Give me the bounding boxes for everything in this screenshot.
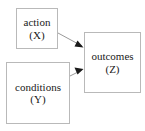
node-action-label: action: [24, 16, 51, 28]
edge-conditions-to-outcomes: [70, 68, 84, 77]
diagram-canvas: action (X) conditions (Y) outcomes (Z): [0, 0, 145, 131]
node-conditions-label: conditions: [15, 81, 61, 93]
node-action-variable: (X): [29, 29, 44, 41]
arrowhead-icon-conditions-outcomes: [75, 68, 84, 75]
arrowhead-icon-action-outcomes: [75, 41, 84, 48]
node-action[interactable]: action (X): [16, 8, 58, 49]
node-conditions-variable: (Y): [30, 93, 45, 105]
node-outcomes-variable: (Z): [105, 63, 119, 75]
node-outcomes[interactable]: outcomes (Z): [84, 32, 141, 93]
edge-line-action-outcomes: [58, 33, 82, 46]
node-outcomes-label: outcomes: [91, 50, 133, 62]
edge-line-conditions-outcomes: [70, 70, 82, 76]
edge-action-to-outcomes: [58, 33, 84, 48]
node-conditions[interactable]: conditions (Y): [6, 62, 70, 124]
